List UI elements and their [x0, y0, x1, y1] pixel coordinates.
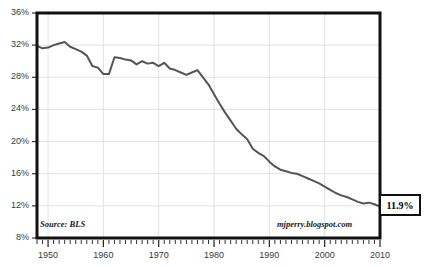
chart-container: 8%12%16%20%24%28%32%36% 1950196019701980… — [0, 0, 424, 267]
y-axis-tick-label: 36% — [0, 7, 29, 17]
end-value-callout: 11.9% — [379, 194, 421, 216]
watermark-label: mjperry.blogspot.com — [277, 219, 352, 229]
y-axis-tick-label: 28% — [0, 71, 29, 81]
y-axis-tick-label: 8% — [0, 232, 29, 242]
y-axis-tick-label: 12% — [0, 200, 29, 210]
x-axis-tick-label: 2000 — [305, 250, 345, 260]
plot-frame-border — [37, 13, 380, 238]
data-series-line — [37, 42, 380, 207]
x-axis-minor-ticks — [37, 240, 374, 244]
x-axis-tick-label: 1980 — [194, 250, 234, 260]
y-axis-tick-label: 20% — [0, 136, 29, 146]
x-axis-tick-label: 2010 — [360, 250, 400, 260]
y-axis-tick-label: 16% — [0, 168, 29, 178]
vertical-gridlines — [48, 13, 380, 238]
x-axis-tick-label: 1970 — [139, 250, 179, 260]
x-axis-tick-label: 1990 — [249, 250, 289, 260]
horizontal-gridlines — [37, 45, 380, 206]
x-axis-tick-label: 1950 — [28, 250, 68, 260]
source-note: Source: BLS — [40, 219, 85, 229]
x-axis-tick-label: 1960 — [83, 250, 123, 260]
y-axis-tick-label: 32% — [0, 39, 29, 49]
y-axis-tick-label: 24% — [0, 103, 29, 113]
